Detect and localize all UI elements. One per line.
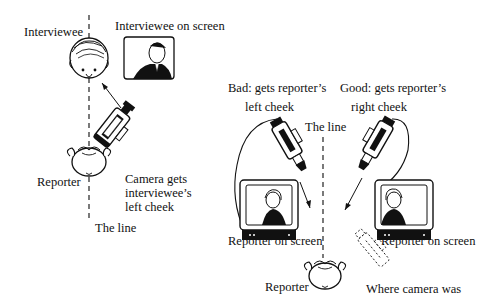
reporter-head-right-icon xyxy=(304,261,345,289)
label-reporter-on-screen-good: Reporter on screen xyxy=(381,234,475,248)
label-interviewee-on-screen: Interviewee on screen xyxy=(115,19,225,33)
label-where-camera-was: Where camera was xyxy=(366,282,461,296)
label-reporter-left: Reporter xyxy=(37,175,81,189)
label-bad-line1: Bad: gets reporter’s xyxy=(228,81,326,95)
good-arrow xyxy=(345,178,362,210)
label-the-line-left: The line xyxy=(95,221,136,235)
interviewee-head-icon xyxy=(70,38,109,78)
camera-icon xyxy=(93,98,141,151)
arrow-camera-to-interviewee xyxy=(102,83,121,108)
good-camera-icon xyxy=(350,112,397,173)
camera-line-diagram: Interviewee Interviewee on screen Report… xyxy=(0,0,489,306)
label-bad-line2: left cheek xyxy=(245,100,294,114)
bad-reporter-screen-icon xyxy=(240,180,298,240)
label-interviewee: Interviewee xyxy=(24,25,83,39)
diagram-artwork xyxy=(0,0,489,306)
label-camera-note-1: Camera gets xyxy=(125,172,187,186)
bad-arrow xyxy=(300,182,311,208)
good-reporter-screen-icon xyxy=(375,180,433,240)
label-good-line2: right cheek xyxy=(351,100,407,114)
label-camera-note-3: left cheek xyxy=(125,200,174,214)
label-the-line-right: The line xyxy=(305,120,346,134)
label-good-line1: Good: gets reporter’s xyxy=(340,81,446,95)
label-reporter-right: Reporter xyxy=(265,280,309,294)
label-camera-note-2: interviewee’s xyxy=(125,186,192,200)
interviewee-screen-icon xyxy=(124,37,174,79)
reporter-head-icon xyxy=(67,147,110,176)
label-reporter-on-screen-bad: Reporter on screen xyxy=(228,234,322,248)
